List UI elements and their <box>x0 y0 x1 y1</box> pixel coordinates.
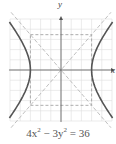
x-axis-label: x <box>111 65 115 75</box>
caption-c: = 36 <box>67 127 90 139</box>
equation-caption: 4x2 − 3y2 = 36 <box>0 126 116 139</box>
caption-a: 4x <box>26 127 37 139</box>
caption-b: − 3y <box>41 127 64 139</box>
hyperbola-graph <box>0 0 116 144</box>
y-axis-label: y <box>58 0 62 9</box>
axes <box>9 16 115 122</box>
